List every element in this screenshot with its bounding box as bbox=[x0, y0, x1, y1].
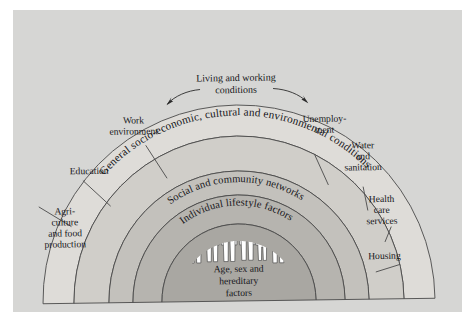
svg-text:ment: ment bbox=[315, 124, 335, 135]
svg-text:Housing: Housing bbox=[368, 250, 401, 261]
svg-text:Health: Health bbox=[369, 193, 395, 204]
svg-text:Water: Water bbox=[351, 139, 375, 150]
rainbow-diagram: General socio-economic, cultural and env… bbox=[0, 0, 473, 329]
arrow-right bbox=[273, 88, 307, 102]
svg-text:care: care bbox=[374, 204, 390, 215]
svg-text:culture: culture bbox=[51, 216, 78, 227]
segment-education: Education bbox=[70, 165, 109, 177]
svg-text:Age, sex and: Age, sex and bbox=[214, 263, 264, 275]
segment-housing: Housing bbox=[368, 250, 401, 261]
svg-text:hereditary: hereditary bbox=[219, 275, 258, 287]
svg-text:services: services bbox=[366, 215, 397, 226]
figure-container: General socio-economic, cultural and env… bbox=[0, 0, 473, 329]
svg-text:Education: Education bbox=[70, 165, 109, 177]
svg-text:Work: Work bbox=[123, 114, 144, 125]
svg-text:production: production bbox=[44, 238, 86, 250]
label-living-working-line2: conditions bbox=[215, 84, 257, 96]
svg-text:Unemploy-: Unemploy- bbox=[303, 112, 347, 124]
label-living-working-line1: Living and working bbox=[196, 71, 276, 83]
segment-work-environment: Work environment bbox=[109, 114, 158, 137]
arrow-right-head bbox=[301, 95, 308, 103]
svg-text:and: and bbox=[356, 150, 370, 161]
svg-text:factors: factors bbox=[226, 287, 253, 298]
svg-text:sanitation: sanitation bbox=[344, 161, 382, 173]
arrow-left-head bbox=[166, 97, 173, 105]
svg-text:and food: and food bbox=[48, 227, 82, 238]
svg-text:environment: environment bbox=[109, 125, 158, 137]
svg-text:Agri-: Agri- bbox=[54, 205, 75, 216]
